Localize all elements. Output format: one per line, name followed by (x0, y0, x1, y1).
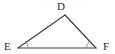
vertex-label-d: D (57, 1, 65, 12)
side-de (18, 15, 65, 48)
angle-arc-e-icon (25, 41, 28, 48)
vertex-label-f: F (103, 41, 109, 52)
side-df (65, 15, 96, 48)
vertex-label-e: E (4, 41, 11, 52)
geometry-figure: D E F (0, 0, 115, 54)
angle-arc-f-icon (87, 41, 90, 48)
